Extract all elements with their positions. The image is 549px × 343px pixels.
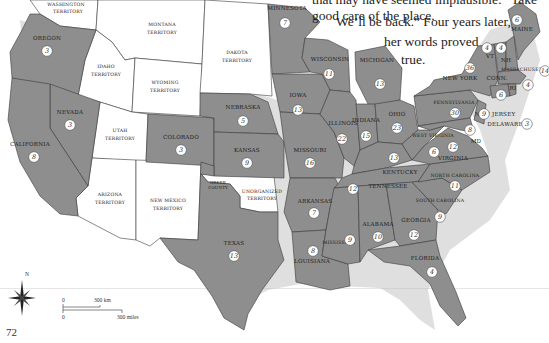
scale-bar: 0 300 km 0 300 miles <box>62 297 139 320</box>
label-dakota-2: TERRITORY <box>222 58 253 63</box>
state-label-florida: FLORIDA <box>411 255 440 261</box>
label-idaho-1: IDAHO <box>97 64 115 69</box>
state-label-vt: VT <box>485 53 494 59</box>
label-newmexico-1: NEW MEXICO <box>150 198 186 203</box>
state-kansas[interactable] <box>214 132 284 178</box>
state-label-colorado: COLORADO <box>163 134 199 140</box>
label-wyoming-1: WYOMING <box>151 80 178 85</box>
electoral-vote-count-south-carolina: 9 <box>438 213 442 221</box>
label-wyoming-2: TERRITORY <box>150 88 181 93</box>
electoral-vote-count-md: 8 <box>468 126 472 134</box>
electoral-vote-count-louisiana: 8 <box>311 247 315 255</box>
label-idaho-2: TERRITORY <box>91 72 122 77</box>
label-arizona-2: TERRITORY <box>95 200 126 205</box>
state-label-iowa: IOWA <box>289 92 307 98</box>
state-label-pennsylvania: PENNSYLVANIA <box>433 100 475 105</box>
electoral-vote-count-new-jersey: 9 <box>482 110 486 118</box>
state-label-ri: RI <box>510 85 517 91</box>
label-greer-2: COUNTY <box>208 185 228 190</box>
scale-mi-zero: 0 <box>62 314 65 320</box>
state-label-north-carolina: NORTH CAROLINA <box>431 173 480 178</box>
electoral-vote-count-kansas: 9 <box>245 159 249 167</box>
state-label-md: MD <box>471 138 482 144</box>
quote-line-3: true. <box>401 52 425 68</box>
electoral-vote-count-nebraska: 5 <box>241 117 245 125</box>
electoral-vote-count-alabama: 10 <box>374 233 382 241</box>
territory-wyoming[interactable] <box>132 58 202 116</box>
state-label-conn: CONN. <box>486 75 507 81</box>
label-washington-2: TERRITORY <box>53 9 84 14</box>
electoral-vote-count-delaware: 3 <box>525 120 529 128</box>
label-dakota-1: DAKOTA <box>226 50 248 55</box>
electoral-vote-count-north-carolina: 11 <box>451 182 459 190</box>
state-label-nebraska: NEBRASKA <box>226 104 262 110</box>
state-label-maine: MAINE <box>511 26 533 32</box>
label-unorganized-2: TERRITORY <box>247 196 278 201</box>
electoral-vote-count-iowa: 13 <box>294 106 302 114</box>
state-label-nh: NH <box>501 57 511 63</box>
electoral-vote-count-colorado: 3 <box>179 146 183 154</box>
label-montana-1: MONTANA <box>148 22 176 27</box>
state-label-alabama: ALABAMA <box>361 221 394 227</box>
state-michigan[interactable] <box>355 46 402 108</box>
state-label-delaware: DELAWARE <box>487 121 523 127</box>
state-indiana[interactable] <box>356 104 378 150</box>
electoral-vote-count-conn: 6 <box>499 91 503 99</box>
state-label-kentucky: KENTUCKY <box>382 169 417 175</box>
electoral-vote-count-florida: 4 <box>429 268 434 276</box>
state-label-minnesota: MINNESOTA <box>267 5 307 11</box>
electoral-vote-count-vt: 4 <box>484 44 489 52</box>
label-unorganized-1: UNORGANIZED <box>242 189 282 194</box>
electoral-vote-count-kentucky: 13 <box>390 154 398 162</box>
label-washington-1: WASHINGTON <box>47 2 84 7</box>
electoral-vote-count-nh: 4 <box>498 44 503 52</box>
state-label-georgia: GEORGIA <box>401 217 431 223</box>
label-utah-2: TERRITORY <box>105 136 136 141</box>
electoral-vote-count-wisconsin: 11 <box>325 70 333 78</box>
label-utah-1: UTAH <box>113 128 128 133</box>
state-label-indiana: INDIANA <box>352 117 381 123</box>
electoral-vote-count-georgia: 12 <box>410 231 418 239</box>
state-label-kansas: KANSAS <box>234 147 260 153</box>
us-electoral-map: WASHINGTON TERRITORY MONTANA TERRITORY D… <box>0 0 549 343</box>
state-label-virginia: VIRGINIA <box>437 155 469 161</box>
state-label-arkansas: ARKANSAS <box>297 198 332 204</box>
electoral-vote-count-ri: 4 <box>525 81 530 89</box>
state-label-california: CALIFORNIA <box>10 141 51 147</box>
territory-new-mexico[interactable] <box>136 160 201 246</box>
electoral-vote-count-indiana: 15 <box>362 132 370 140</box>
scale-mi-label: 300 miles <box>117 314 139 320</box>
territory-dakota[interactable] <box>200 0 272 96</box>
label-arizona-1: ARIZONA <box>97 192 123 197</box>
label-newmexico-2: TERRITORY <box>153 206 184 211</box>
electoral-vote-count-nevada: 3 <box>68 121 72 129</box>
electoral-vote-count-west-virginia: 6 <box>432 148 436 156</box>
state-label-nevada: NEVADA <box>57 109 84 115</box>
quote-line-1: We’ll be back.” Four years later, <box>336 14 511 30</box>
electoral-vote-count-virginia: 12 <box>449 143 457 151</box>
electoral-vote-count-mississippi: 9 <box>348 236 352 244</box>
electoral-vote-count-new-york: 36 <box>466 64 474 72</box>
compass-north-label: N <box>25 271 29 277</box>
compass-rose: N <box>8 271 36 316</box>
electoral-vote-count-ohio: 23 <box>392 124 401 132</box>
state-label-west-virginia: WEST VIRGINIA <box>412 133 454 138</box>
electoral-vote-count-texas: 13 <box>230 252 238 260</box>
scale-km-label: 300 km <box>94 297 111 303</box>
quote-line-2: her words proved <box>384 34 478 50</box>
state-label-louisiana: LOUISIANA <box>294 258 331 264</box>
electoral-vote-count-pennsylvania: 30 <box>451 109 459 117</box>
electoral-vote-count-missouri: 16 <box>306 159 314 167</box>
electoral-vote-count-michigan: 13 <box>376 80 384 88</box>
state-label-ohio: OHIO <box>388 111 405 117</box>
page-number: 72 <box>6 326 17 338</box>
label-montana-2: TERRITORY <box>147 30 178 35</box>
electoral-vote-count-illinois: 22 <box>337 135 346 143</box>
state-colorado[interactable] <box>146 114 214 166</box>
state-label-texas: TEXAS <box>224 240 244 246</box>
state-label-wisconsin: WISCONSIN <box>311 56 349 62</box>
state-label-tennessee: TENNESSEE <box>368 183 407 189</box>
state-label-new-york: NEW YORK <box>443 75 478 81</box>
state-label-michigan: MICHIGAN <box>360 57 394 63</box>
electoral-vote-count-tennessee: 12 <box>349 185 357 193</box>
